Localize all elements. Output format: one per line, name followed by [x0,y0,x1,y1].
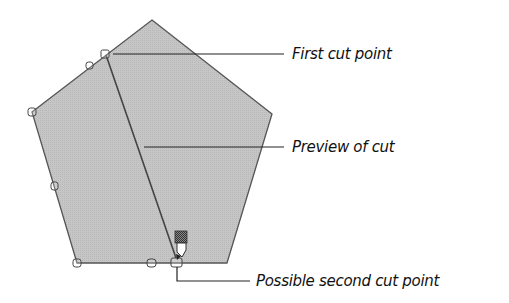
label-second-cut-point: Possible second cut point [256,272,439,290]
label-first-cut-point: First cut point [292,45,392,63]
label-preview-of-cut: Preview of cut [292,138,394,156]
handle [73,259,81,267]
diagram-canvas: First cut point Preview of cut Possible … [0,0,509,303]
handle-first-cut [101,50,109,58]
leader-second-cut [177,267,250,281]
handle [86,62,93,69]
handle-second-cut [171,258,182,267]
pentagon-shape[interactable] [32,20,272,263]
handle [51,182,58,190]
pentagon-diagram [0,0,509,303]
handle [147,259,156,267]
handle [28,108,36,116]
